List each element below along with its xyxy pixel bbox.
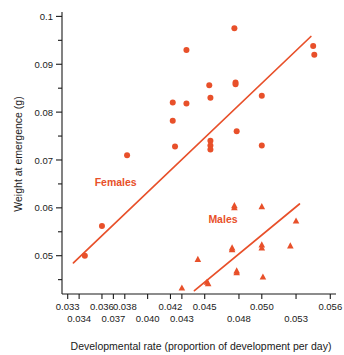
x-tick-label-upper: 0.042 (159, 301, 183, 312)
data-point-males (195, 256, 202, 262)
x-tick-label-upper: 0.036 (90, 301, 114, 312)
x-tick-label-lower: 0.048 (227, 313, 251, 324)
trend-line-females (73, 36, 310, 262)
data-point-males (179, 284, 186, 290)
data-point-males (260, 273, 267, 279)
data-point-females (206, 82, 212, 88)
data-point-females (124, 152, 130, 158)
data-point-males (293, 217, 300, 223)
x-tick-label-upper: 0.038 (113, 301, 137, 312)
data-point-females (82, 253, 88, 259)
y-tick-label: 0.1 (40, 11, 53, 22)
data-point-males (258, 203, 265, 209)
data-point-males (287, 242, 294, 248)
y-axis-title: Weight at emergence (g) (12, 96, 24, 211)
data-point-females (310, 43, 316, 49)
scatter-plot-figure: 0.10.090.080.070.060.050.0330.0360.0380.… (0, 0, 344, 355)
data-point-females (207, 95, 213, 101)
data-point-females (234, 128, 240, 134)
data-point-females (170, 118, 176, 124)
data-point-females (183, 101, 189, 107)
x-tick-label-upper: 0.050 (250, 301, 274, 312)
x-axis-title: Developmental rate (proportion of develo… (71, 340, 332, 352)
data-point-females (99, 223, 105, 229)
data-point-females (311, 52, 317, 58)
data-point-females (170, 100, 176, 106)
x-tick-label-upper: 0.033 (56, 301, 80, 312)
series-label-females: Females (95, 176, 137, 188)
y-tick-label: 0.09 (35, 59, 54, 70)
plot-canvas: 0.10.090.080.070.060.050.0330.0360.0380.… (0, 0, 344, 355)
x-tick-label-lower: 0.040 (136, 313, 160, 324)
y-tick-label: 0.06 (35, 202, 54, 213)
data-point-females (259, 93, 265, 99)
x-tick-label-lower: 0.034 (67, 313, 91, 324)
y-tick-label: 0.05 (35, 250, 54, 261)
data-point-females (259, 143, 265, 149)
x-tick-label-lower: 0.043 (170, 313, 194, 324)
data-point-females (172, 144, 178, 150)
x-tick-label-lower: 0.037 (101, 313, 125, 324)
data-point-females (233, 81, 239, 87)
data-point-females (231, 25, 237, 31)
x-tick-label-lower: 0.053 (284, 313, 308, 324)
x-tick-label-upper: 0.045 (193, 301, 217, 312)
y-tick-label: 0.08 (35, 107, 54, 118)
data-point-females (207, 146, 213, 152)
x-tick-label-upper: 0.056 (318, 301, 342, 312)
data-point-females (183, 47, 189, 53)
y-tick-label: 0.07 (35, 155, 54, 166)
series-label-males: Males (208, 213, 237, 225)
